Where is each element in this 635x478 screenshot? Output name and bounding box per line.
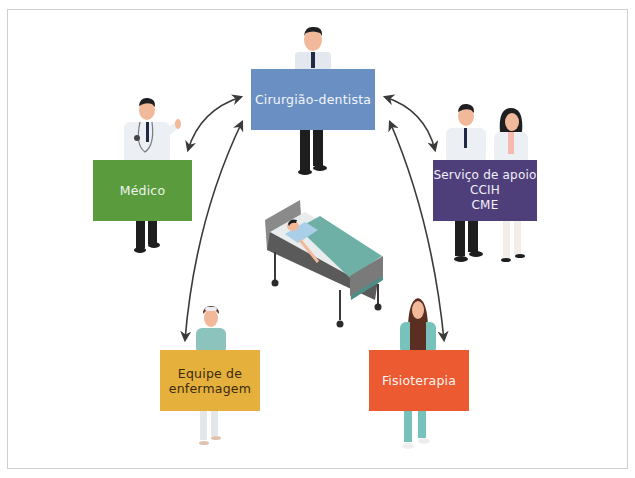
role-box-fisioterapia: Fisioterapia bbox=[369, 350, 469, 411]
role-label-servico-de-apoio: Serviço de apoio bbox=[433, 168, 536, 183]
role-label-cme: CME bbox=[472, 198, 499, 213]
role-label-equipe-de: Equipe de bbox=[178, 366, 242, 381]
role-label-enfermagem: enfermagem bbox=[169, 381, 251, 396]
role-label-medico: Médico bbox=[120, 183, 166, 198]
role-label-cirurgiao-dentista: Cirurgião-dentista bbox=[255, 92, 371, 107]
role-label-fisioterapia: Fisioterapia bbox=[382, 373, 456, 388]
role-box-servico-de-apoio: Serviço de apoio CCIH CME bbox=[433, 160, 537, 221]
hospital-bed-icon bbox=[265, 200, 383, 328]
role-box-equipe-de-enfermagem: Equipe de enfermagem bbox=[160, 350, 260, 411]
arrow-dentist-apoio bbox=[385, 97, 435, 150]
role-box-cirurgiao-dentista: Cirurgião-dentista bbox=[251, 69, 375, 130]
role-box-medico: Médico bbox=[93, 160, 192, 221]
role-label-ccih: CCIH bbox=[470, 183, 500, 198]
